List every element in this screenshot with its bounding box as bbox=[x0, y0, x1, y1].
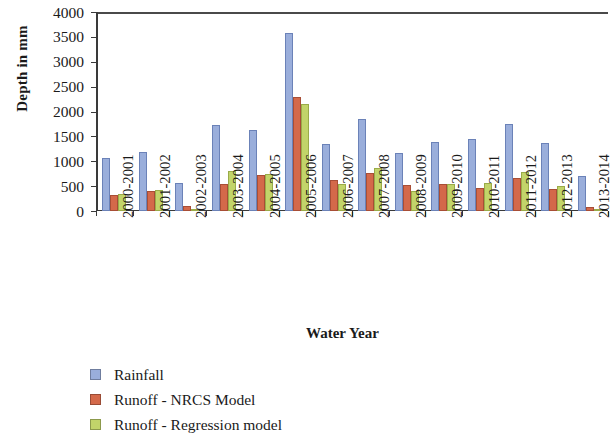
x-axis-label: 2003-2004 bbox=[230, 128, 247, 218]
bar bbox=[110, 195, 118, 211]
y-axis-title: Depth in mm bbox=[14, 0, 31, 139]
bar bbox=[322, 144, 330, 211]
bar bbox=[431, 142, 439, 211]
y-axis-tick-label: 4000 bbox=[53, 4, 84, 22]
x-axis-label: 2004-2005 bbox=[267, 128, 284, 218]
legend-label: Rainfall bbox=[114, 366, 164, 384]
bar bbox=[183, 206, 191, 211]
x-axis-label: 2000-2001 bbox=[120, 128, 137, 218]
bar bbox=[147, 191, 155, 211]
y-axis-tick-label: 1500 bbox=[53, 128, 84, 146]
x-axis-label: 2005-2006 bbox=[303, 128, 320, 218]
y-axis-tick-label: 3000 bbox=[53, 53, 84, 71]
bar bbox=[330, 180, 338, 211]
y-axis-tick-label: 1000 bbox=[53, 153, 84, 171]
bar bbox=[395, 153, 403, 211]
bar bbox=[358, 119, 366, 211]
bar bbox=[220, 184, 228, 211]
y-axis-tick-label: 2000 bbox=[53, 103, 84, 121]
legend-label: Runoff - NRCS Model bbox=[114, 391, 255, 409]
x-axis-label: 2006-2007 bbox=[340, 128, 357, 218]
x-axis-label: 2010-2011 bbox=[486, 128, 503, 218]
x-axis-title: Water Year bbox=[0, 325, 615, 342]
bar bbox=[578, 176, 586, 211]
bar bbox=[505, 124, 513, 211]
y-axis-tick-label: 500 bbox=[61, 178, 84, 196]
bar bbox=[403, 185, 411, 211]
bar bbox=[366, 173, 374, 211]
bar bbox=[257, 175, 265, 211]
x-axis-label: 2012-2013 bbox=[559, 128, 576, 218]
bar bbox=[476, 188, 484, 211]
bar bbox=[285, 33, 293, 211]
legend-label: Runoff - Regression model bbox=[114, 416, 282, 434]
y-axis-tick-label: 0 bbox=[76, 203, 84, 221]
bar bbox=[102, 158, 110, 211]
bar bbox=[293, 97, 301, 211]
y-axis-tick-label: 2500 bbox=[53, 78, 84, 96]
bar bbox=[249, 130, 257, 211]
y-axis-tick-label: 3500 bbox=[53, 28, 84, 46]
bar bbox=[175, 183, 183, 211]
bar bbox=[513, 178, 521, 211]
legend-swatch bbox=[90, 394, 101, 405]
legend-swatch bbox=[90, 419, 101, 430]
x-axis-tick bbox=[96, 211, 97, 216]
bar bbox=[468, 139, 476, 211]
bar bbox=[439, 184, 447, 211]
chart-legend: RainfallRunoff - NRCS ModelRunoff - Regr… bbox=[90, 362, 282, 437]
legend-item: Runoff - NRCS Model bbox=[90, 387, 282, 412]
x-axis-label: 2002-2003 bbox=[193, 128, 210, 218]
legend-item: Rainfall bbox=[90, 362, 282, 387]
x-axis-label: 2008-2009 bbox=[413, 128, 430, 218]
x-axis-label: 2007-2008 bbox=[376, 128, 393, 218]
x-axis-label: 2001-2002 bbox=[157, 128, 174, 218]
bar bbox=[541, 143, 549, 211]
legend-item: Runoff - Regression model bbox=[90, 412, 282, 437]
x-axis-label: 2013-2014 bbox=[596, 128, 613, 218]
x-axis-label: 2011-2012 bbox=[523, 128, 540, 218]
x-axis-label: 2009-2010 bbox=[449, 128, 466, 218]
bar bbox=[139, 152, 147, 211]
legend-swatch bbox=[90, 369, 101, 380]
bar bbox=[586, 207, 594, 211]
bar bbox=[212, 125, 220, 211]
bar bbox=[549, 189, 557, 211]
